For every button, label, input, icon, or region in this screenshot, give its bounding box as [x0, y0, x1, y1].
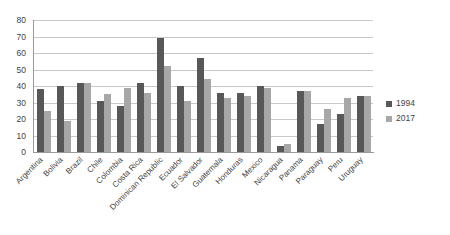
x-tick-label: Bolivia — [42, 156, 64, 178]
bar-group — [94, 20, 114, 152]
bar-1994 — [277, 146, 283, 152]
x-tick-label: Argentina — [15, 156, 45, 186]
y-tick-label: 60 — [17, 49, 26, 58]
bar-1994 — [317, 124, 323, 152]
bar-1994 — [37, 89, 43, 152]
bar-2017 — [244, 96, 250, 152]
bar-group — [194, 20, 214, 152]
y-tick-label: 70 — [17, 32, 26, 41]
bar-1994 — [357, 96, 363, 152]
bar-2017 — [344, 98, 350, 152]
y-tick-label: 10 — [17, 131, 26, 140]
bar-group — [214, 20, 234, 152]
bar-1994 — [77, 83, 83, 152]
bar-group — [54, 20, 74, 152]
legend-swatch-icon — [386, 116, 392, 122]
x-tick-label: Brazil — [65, 156, 85, 176]
x-axis: ArgentinaBoliviaBrazilChileColombiaCosta… — [34, 154, 373, 234]
bar-2017 — [324, 109, 330, 152]
bar-group — [134, 20, 154, 152]
bar-1994 — [117, 106, 123, 152]
legend-item[interactable]: 1994 — [386, 96, 446, 111]
y-tick-label: 30 — [17, 98, 26, 107]
bar-group — [114, 20, 134, 152]
bars-layer — [34, 20, 373, 152]
bar-2017 — [64, 121, 70, 152]
bar-1994 — [197, 58, 203, 152]
y-tick-label: 40 — [17, 82, 26, 91]
bar-1994 — [337, 114, 343, 152]
bar-2017 — [284, 144, 290, 152]
bar-2017 — [184, 101, 190, 152]
bar-group — [174, 20, 194, 152]
bar-group — [274, 20, 294, 152]
bar-1994 — [297, 91, 303, 152]
bar-1994 — [157, 38, 163, 152]
bar-1994 — [177, 86, 183, 152]
bar-2017 — [104, 94, 110, 152]
chart-legend: 19942017 — [386, 96, 446, 126]
legend-item[interactable]: 2017 — [386, 111, 446, 126]
bar-2017 — [204, 79, 210, 152]
bar-1994 — [217, 93, 223, 152]
bar-2017 — [264, 88, 270, 152]
bar-group — [314, 20, 334, 152]
y-tick-label: 20 — [17, 115, 26, 124]
bar-2017 — [364, 96, 370, 152]
bar-chart: 80706050403020100 ArgentinaBoliviaBrazil… — [0, 0, 450, 235]
bar-group — [354, 20, 374, 152]
bar-1994 — [137, 83, 143, 152]
y-tick-label: 0 — [21, 148, 26, 157]
bar-group — [74, 20, 94, 152]
y-tick-label: 80 — [17, 16, 26, 25]
bar-2017 — [144, 93, 150, 152]
legend-swatch-icon — [386, 101, 392, 107]
bar-2017 — [304, 91, 310, 152]
bar-1994 — [237, 93, 243, 152]
bar-2017 — [84, 83, 90, 152]
legend-label: 1994 — [396, 99, 415, 108]
bar-group — [34, 20, 54, 152]
bar-group — [154, 20, 174, 152]
bar-2017 — [124, 88, 130, 152]
bar-1994 — [97, 101, 103, 152]
bar-2017 — [164, 66, 170, 152]
legend-label: 2017 — [396, 114, 415, 123]
bar-2017 — [224, 98, 230, 152]
bar-group — [254, 20, 274, 152]
bar-1994 — [57, 86, 63, 152]
bar-group — [234, 20, 254, 152]
y-tick-label: 50 — [17, 65, 26, 74]
bar-1994 — [257, 86, 263, 152]
bar-group — [294, 20, 314, 152]
bar-group — [334, 20, 354, 152]
y-axis: 80706050403020100 — [0, 20, 30, 152]
bar-2017 — [44, 111, 50, 152]
